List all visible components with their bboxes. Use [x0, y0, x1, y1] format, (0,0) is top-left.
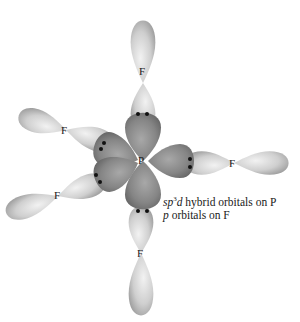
central-atom-label: P [138, 155, 144, 166]
caption-line-p: p orbitals on F [163, 209, 276, 222]
ligand-label-right: F [229, 158, 235, 169]
bond-axial-top [125, 21, 161, 161]
ligand-label-axial-top: F [139, 66, 145, 77]
caption-line-hybrid: sp3d hybrid orbitals on P [163, 193, 276, 209]
bond-equatorial-right [148, 144, 289, 178]
ligand-label-axial-bottom: F [137, 248, 143, 259]
caption-sp: sp [163, 196, 173, 208]
orbital-artwork [0, 0, 300, 322]
bond-axial-bottom [125, 161, 161, 315]
ligand-label-lower-left: F [54, 190, 60, 201]
orbital-caption: sp3d hybrid orbitals on P p orbitals on … [163, 193, 276, 222]
caption-line1-rest: hybrid orbitals on P [182, 196, 276, 208]
bond-equatorial-lower-left [2, 147, 144, 224]
orbital-diagram: P F F F F F sp3d hybrid orbitals on P p … [0, 0, 300, 322]
caption-line2-rest: orbitals on F [169, 209, 230, 221]
ligand-label-upper-left: F [61, 125, 67, 136]
